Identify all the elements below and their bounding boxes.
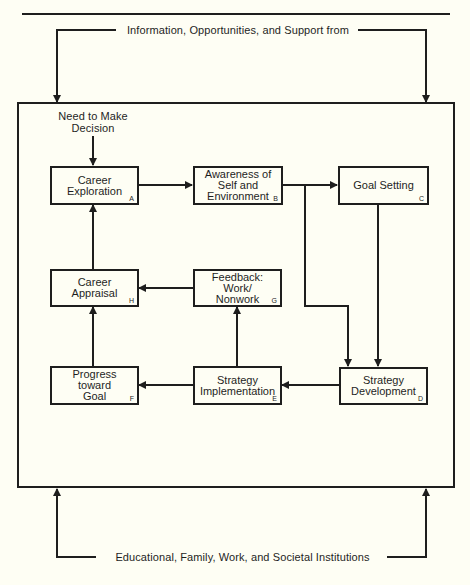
box-letter: C <box>419 195 424 202</box>
top-right-arrow <box>352 30 426 102</box>
top-label: Information, Opportunities, and Support … <box>118 24 358 36</box>
box-letter: D <box>418 395 423 402</box>
box-career-appraisal: Career Appraisal H <box>50 269 139 307</box>
box-letter: H <box>129 297 134 304</box>
box-feedback: Feedback: Work/ Nonwork G <box>193 269 282 307</box>
top-left-arrow <box>57 30 116 102</box>
box-letter: A <box>129 195 134 202</box>
box-label: Goal Setting <box>353 180 414 191</box>
bottom-right-arrow <box>383 489 426 557</box>
box-strategy-implementation: Strategy Implementation E <box>193 366 282 405</box>
bottom-left-arrow <box>57 489 96 557</box>
box-letter: B <box>273 195 278 202</box>
box-goal-setting: Goal Setting C <box>338 166 429 205</box>
box-label: Strategy Development <box>351 375 416 397</box>
box-awareness: Awareness of Self and Environment B <box>193 166 283 205</box>
box-label: Awareness of Self and Environment <box>205 169 271 202</box>
box-label: Progress toward Goal <box>72 369 116 402</box>
box-career-exploration: Career Exploration A <box>50 166 139 205</box>
box-label: Career Exploration <box>67 175 122 197</box>
box-label: Strategy Implementation <box>200 375 275 397</box>
box-letter: G <box>272 297 277 304</box>
box-letter: E <box>272 395 277 402</box>
box-progress-toward-goal: Progress toward Goal F <box>50 366 139 405</box>
box-label: Feedback: Work/ Nonwork <box>212 272 263 305</box>
arrow-b-to-d <box>305 185 348 366</box>
need-to-make-decision-label: Need to Make Decision <box>38 110 148 134</box>
bottom-label: Educational, Family, Work, and Societal … <box>98 551 387 563</box>
box-letter: F <box>130 395 134 402</box>
box-strategy-development: Strategy Development D <box>339 367 428 405</box>
box-label: Career Appraisal <box>72 277 118 299</box>
